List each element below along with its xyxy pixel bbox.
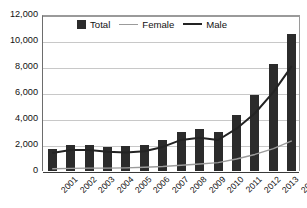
- legend-item-female: Female: [119, 19, 174, 30]
- y-axis-tick-label: 12,000: [0, 10, 38, 19]
- line-female: [52, 141, 292, 169]
- bar-swatch-icon: [77, 20, 86, 29]
- gridline: [43, 172, 299, 173]
- y-axis-tick-label: 10,000: [0, 36, 38, 45]
- chart-legend: Total Female Male: [74, 17, 230, 31]
- legend-label-male: Male: [206, 19, 227, 30]
- legend-item-male: Male: [183, 19, 227, 30]
- legend-label-total: Total: [90, 19, 110, 30]
- plot-area: [42, 15, 300, 171]
- line-male: [52, 66, 292, 153]
- chart-container: 02,0004,0006,0008,00010,00012,000 200120…: [0, 0, 307, 208]
- y-axis-tick-label: 4,000: [0, 114, 38, 123]
- line-series-group: [43, 16, 301, 172]
- y-axis-tick-label: 6,000: [0, 88, 38, 97]
- legend-label-female: Female: [142, 19, 174, 30]
- y-axis-tick-label: 8,000: [0, 62, 38, 71]
- legend-item-total: Total: [77, 19, 110, 30]
- y-axis-tick-label: 2,000: [0, 140, 38, 149]
- y-axis-tick-label: 0: [0, 166, 38, 175]
- line-swatch-light-icon: [119, 24, 138, 25]
- line-swatch-dark-icon: [183, 23, 202, 25]
